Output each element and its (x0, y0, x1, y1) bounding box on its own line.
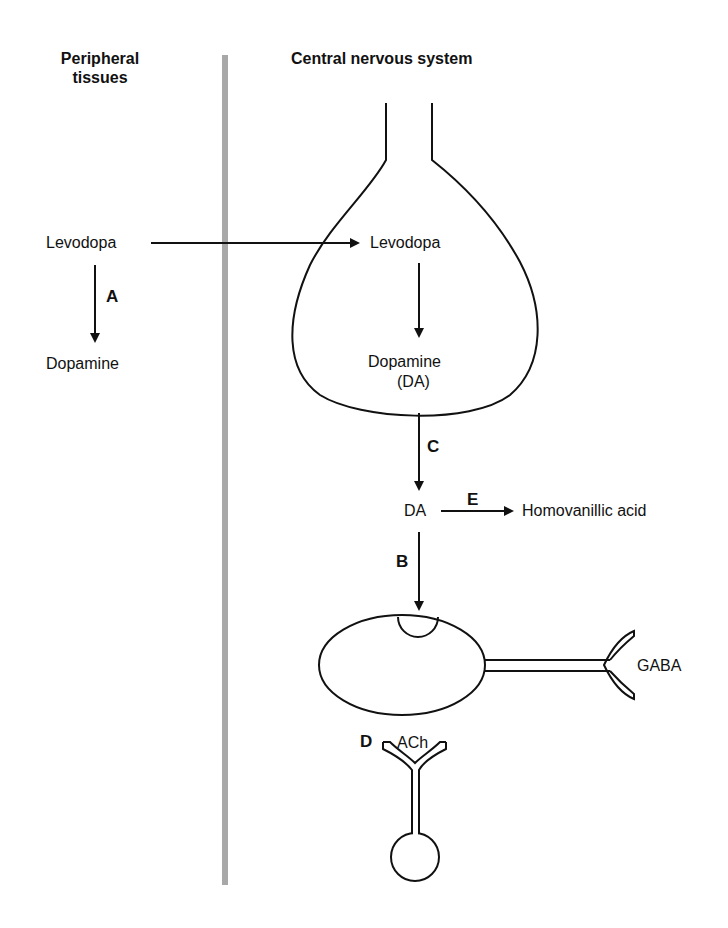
cns-dopamine: Dopamine (368, 353, 441, 371)
ach-label: ACh (397, 734, 428, 752)
peripheral-header: Peripheral tissues (40, 49, 160, 87)
gaba-terminal (604, 631, 634, 699)
step-label-a: A (106, 287, 118, 307)
cns-header: Central nervous system (291, 49, 472, 68)
gaba-axon (484, 660, 610, 671)
divider-line (222, 55, 228, 885)
gaba-label: GABA (637, 657, 681, 675)
homovanillic-acid: Homovanillic acid (522, 502, 647, 520)
cns-dopamine-abbrev: (DA) (397, 373, 430, 391)
peripheral-levodopa: Levodopa (46, 234, 116, 252)
step-label-e: E (467, 490, 478, 510)
peripheral-dopamine: Dopamine (46, 355, 119, 373)
synaptic-da: DA (404, 502, 426, 520)
diagram-canvas (0, 0, 728, 928)
ach-neuron-body (391, 833, 439, 881)
step-label-b: B (396, 552, 408, 572)
step-label-c: C (427, 437, 439, 457)
ach-terminal (383, 742, 446, 836)
cns-levodopa: Levodopa (370, 234, 440, 252)
peripheral-header-line1: Peripheral (40, 49, 160, 68)
peripheral-header-line2: tissues (40, 68, 160, 87)
step-label-d: D (360, 732, 372, 752)
